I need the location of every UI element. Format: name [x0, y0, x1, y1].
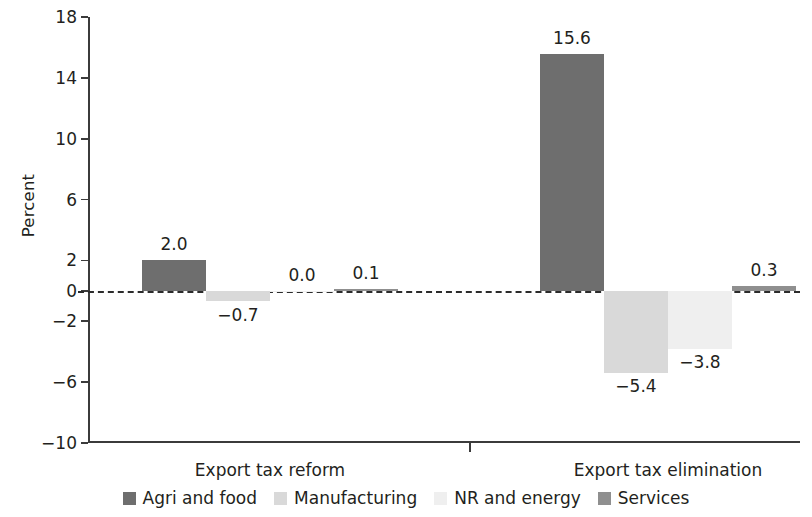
- bar-value-label: 0.1: [352, 263, 379, 283]
- bar: [142, 260, 206, 290]
- legend-label: NR and energy: [454, 488, 581, 508]
- y-tick-label: 0: [66, 281, 77, 301]
- bar: [604, 291, 668, 373]
- legend-item[interactable]: Agri and food: [123, 488, 258, 508]
- legend: Agri and foodManufacturingNR and energyS…: [0, 488, 812, 508]
- legend-label: Services: [618, 488, 690, 508]
- plot-area: 181410620−2−6−10 2.0−0.70.00.115.6−5.4−3…: [88, 17, 800, 443]
- x-axis-line: [88, 441, 800, 443]
- legend-item[interactable]: NR and energy: [434, 488, 581, 508]
- y-tick-label: 10: [55, 129, 77, 149]
- legend-swatch-icon: [434, 492, 447, 505]
- bar: [540, 54, 604, 291]
- legend-swatch-icon: [274, 492, 287, 505]
- y-tick-label: −2: [52, 311, 77, 331]
- bar-value-label: −3.8: [679, 352, 720, 372]
- bar: [334, 289, 398, 291]
- y-tick-mark: [81, 442, 88, 444]
- y-axis-line: [88, 17, 90, 443]
- y-tick-mark: [81, 199, 88, 201]
- bar: [732, 286, 796, 291]
- legend-item[interactable]: Manufacturing: [274, 488, 417, 508]
- bar-value-label: −5.4: [615, 376, 656, 396]
- y-tick-label: 14: [55, 68, 77, 88]
- legend-label: Manufacturing: [294, 488, 417, 508]
- bar-value-label: 0.3: [750, 260, 777, 280]
- y-tick-mark: [81, 320, 88, 322]
- legend-label: Agri and food: [143, 488, 258, 508]
- bar-value-label: 0.0: [288, 265, 315, 285]
- y-tick-label: 18: [55, 7, 77, 27]
- legend-swatch-icon: [123, 492, 136, 505]
- bar: [668, 291, 732, 349]
- y-tick-mark: [81, 260, 88, 262]
- y-tick-mark: [81, 77, 88, 79]
- y-axis-label: Percent: [19, 146, 38, 266]
- y-tick-mark: [81, 381, 88, 383]
- bar-value-label: −0.7: [217, 305, 258, 325]
- legend-swatch-icon: [598, 492, 611, 505]
- x-category-label: Export tax reform: [195, 460, 345, 480]
- x-group-separator-tick: [469, 443, 471, 452]
- legend-item[interactable]: Services: [598, 488, 690, 508]
- bar-chart: Percent 181410620−2−6−10 2.0−0.70.00.115…: [0, 0, 812, 517]
- y-tick-label: −10: [41, 433, 77, 453]
- x-category-label: Export tax elimination: [574, 460, 763, 480]
- y-tick-label: −6: [52, 372, 77, 392]
- bar-value-label: 15.6: [553, 28, 591, 48]
- y-tick-mark: [81, 16, 88, 18]
- bar: [206, 291, 270, 302]
- y-tick-mark: [81, 138, 88, 140]
- bar-value-label: 2.0: [160, 234, 187, 254]
- y-tick-label: 2: [66, 250, 77, 270]
- bar: [270, 291, 334, 292]
- y-tick-label: 6: [66, 190, 77, 210]
